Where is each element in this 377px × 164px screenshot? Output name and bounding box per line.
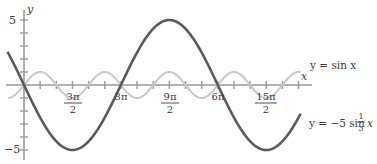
tick-denominator: 2 [70,104,76,115]
neg5-sin-curve-label: y = −5 sin 1 3 x [308,112,373,133]
tick-numerator: 9π [164,91,177,102]
label-var: x [367,117,373,129]
label-fraction-den: 3 [358,124,363,133]
tick-numerator: 3π [67,91,80,102]
x-tick-label-15pi-2: 15π 2 [255,91,277,115]
x-tick-label-9pi-2: 9π 2 [161,91,179,115]
tick-denominator: 2 [167,104,173,115]
x-tick-label-3pi: 3π [115,91,128,102]
y-tick-label-neg5: −5 [4,143,20,156]
y-axis-label: y [26,3,34,16]
tick-numerator: 15π [256,91,276,102]
x-tick-label-3pi-2: 3π 2 [64,91,82,115]
label-fraction-num: 1 [358,112,363,121]
x-tick-label-6pi: 6π [212,91,225,102]
y-tick-label-5: 5 [9,14,16,27]
tick-denominator: 2 [263,104,269,115]
label-prefix: y = −5 sin [308,117,365,129]
sin-curve-label: y = sin x [309,59,356,71]
x-axis-label: x [301,70,308,83]
chart: y x 5 −5 3π 2 3π 9π 2 6π 15π 2 y = sin x… [0,0,377,164]
